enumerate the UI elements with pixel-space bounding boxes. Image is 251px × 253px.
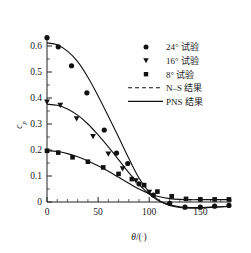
data-point <box>114 151 119 156</box>
legend-label: 16° 试验 <box>166 55 199 66</box>
data-point <box>120 166 126 171</box>
data-point <box>74 116 80 121</box>
data-point <box>136 181 141 186</box>
data-point <box>102 127 107 132</box>
data-point <box>212 204 217 209</box>
legend-label: 24° 试验 <box>166 41 199 52</box>
y-tick-label: 0 <box>37 197 42 207</box>
y-tick-label: 0.3 <box>30 119 42 129</box>
y-tick-label: 0.6 <box>30 41 42 51</box>
y-tick-label: 0.2 <box>30 145 42 155</box>
x-tick-label: 0 <box>45 207 50 217</box>
series-triangle-down <box>44 99 152 194</box>
data-point <box>155 189 160 194</box>
data-point <box>90 134 96 139</box>
data-markers <box>44 35 231 210</box>
tick-label-group: 05010015000.10.20.30.40.50.6 <box>30 41 208 217</box>
x-axis-title: θ/(◦) <box>131 232 146 243</box>
chart-canvas: 05010015000.10.20.30.40.50.6 θ/(◦) cp 24… <box>0 0 251 253</box>
series-circle <box>44 35 231 210</box>
data-point <box>184 197 189 202</box>
data-point <box>101 165 106 170</box>
data-point <box>86 159 91 164</box>
legend-label: 8° 试验 <box>166 69 194 80</box>
data-point <box>169 194 174 199</box>
data-point <box>142 183 147 188</box>
data-point <box>56 150 61 155</box>
legend-label: PNS 结果 <box>166 96 203 107</box>
series-square <box>45 148 232 201</box>
data-point <box>167 201 172 206</box>
x-tick-label: 100 <box>142 207 157 217</box>
triangle-down-icon <box>143 58 148 63</box>
data-point <box>212 197 217 202</box>
data-point <box>105 151 111 156</box>
y-tick-group <box>47 46 52 202</box>
data-point <box>56 44 61 49</box>
data-point <box>125 161 130 166</box>
data-point <box>227 197 232 202</box>
x-tick-label: 50 <box>93 207 103 217</box>
data-point <box>70 155 75 160</box>
y-tick-label: 0.4 <box>30 93 42 103</box>
data-point <box>44 35 49 40</box>
y-axis-title: cp <box>14 121 27 129</box>
circle-icon <box>144 45 149 50</box>
data-point <box>226 203 231 208</box>
chart-legend: 24° 试验16° 试验8° 试验N–S 结果PNS 结果 <box>128 41 203 106</box>
data-point <box>130 177 135 182</box>
data-point <box>45 148 50 153</box>
data-point <box>84 90 89 95</box>
data-point <box>182 205 187 210</box>
y-tick-label: 0.5 <box>30 67 42 77</box>
y-tick-label: 0.1 <box>30 171 42 181</box>
data-point <box>69 63 74 68</box>
data-point <box>116 172 121 177</box>
chart-figure: 05010015000.10.20.30.40.50.6 θ/(◦) cp 24… <box>0 0 251 253</box>
data-point <box>198 205 203 210</box>
square-icon <box>144 72 148 76</box>
legend-label: N–S 结果 <box>166 82 202 93</box>
data-point <box>198 197 203 202</box>
